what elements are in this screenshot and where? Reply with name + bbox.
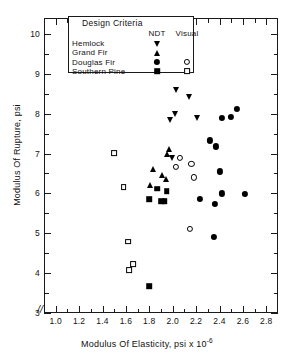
axis-tick	[255, 18, 256, 23]
y-tick-label: 7	[20, 149, 40, 159]
axis-tick	[44, 273, 51, 274]
axis-tick	[243, 306, 244, 313]
axis-tick	[114, 309, 115, 314]
axis-tick	[255, 309, 256, 314]
axis-tick	[44, 193, 51, 194]
x-axis-title-text: Modulus Of Elasticity, psi x 10	[81, 339, 207, 349]
axis-tick	[231, 18, 232, 23]
data-point	[194, 115, 200, 121]
axis-tick	[220, 306, 221, 313]
legend-marker-ndt	[154, 41, 160, 47]
legend-row-label: Hemlock	[72, 39, 105, 48]
data-point	[186, 94, 192, 100]
axis-tick	[44, 213, 49, 214]
data-point	[163, 176, 169, 182]
axis-break-marker: //	[37, 303, 43, 315]
axis-tick	[271, 34, 278, 35]
axis-tick	[271, 193, 278, 194]
axis-tick	[274, 173, 279, 174]
axis-tick	[274, 54, 279, 55]
axis-tick	[44, 74, 51, 75]
axis-tick	[56, 306, 57, 313]
axis-tick	[196, 18, 197, 25]
y-tick-label: 5	[20, 228, 40, 238]
axis-tick	[208, 18, 209, 23]
x-tick-label: 2.0	[166, 316, 178, 326]
axis-tick	[243, 18, 244, 25]
axis-tick	[271, 114, 278, 115]
axis-tick	[44, 134, 49, 135]
legend-marker-ndt	[154, 59, 160, 65]
data-point	[125, 239, 131, 245]
axis-tick	[44, 233, 51, 234]
data-point	[111, 150, 117, 156]
axis-tick	[274, 94, 279, 95]
y-tick-label: 8	[20, 109, 40, 119]
y-tick-label: 6	[20, 188, 40, 198]
axis-tick	[56, 18, 57, 25]
legend-box: Design Criteria NDTVisualHemlockGrand Fi…	[68, 16, 194, 73]
y-tick-label: 10	[20, 29, 40, 39]
axis-tick	[231, 309, 232, 314]
x-axis-title-exponent: -6	[207, 337, 213, 344]
x-tick-label: 1.8	[143, 316, 155, 326]
axis-tick	[103, 306, 104, 313]
axis-tick	[274, 134, 279, 135]
axis-tick	[271, 233, 278, 234]
data-point	[147, 283, 153, 289]
x-tick-label: 2.6	[237, 316, 249, 326]
axis-tick	[44, 253, 49, 254]
legend-row-label: Douglas Fir	[72, 58, 115, 67]
y-tick-label: 9	[20, 69, 40, 79]
axis-tick	[161, 309, 162, 314]
axis-tick	[271, 74, 278, 75]
data-point	[173, 87, 179, 93]
axis-tick	[67, 309, 68, 314]
data-point	[162, 199, 168, 205]
x-axis-title: Modulus Of Elasticity, psi x 10-6	[0, 337, 294, 349]
axis-tick	[274, 213, 279, 214]
legend-column-header: NDT	[148, 29, 165, 38]
x-tick-label: 2.2	[190, 316, 202, 326]
x-tick-label: 1.4	[96, 316, 108, 326]
axis-tick	[266, 306, 267, 313]
x-tick-label: 1.6	[120, 316, 132, 326]
data-point	[164, 188, 170, 194]
axis-tick	[44, 293, 49, 294]
x-tick-label: 1.2	[73, 316, 85, 326]
data-point	[150, 166, 156, 172]
data-point	[147, 182, 153, 188]
axis-tick	[271, 273, 278, 274]
axis-tick	[149, 306, 150, 313]
data-point	[164, 151, 170, 157]
legend-column-header: Visual	[176, 29, 199, 38]
y-tick-label: 4	[20, 268, 40, 278]
x-tick-label: 2.8	[260, 316, 272, 326]
axis-tick	[274, 253, 279, 254]
axis-tick	[44, 114, 51, 115]
data-point	[167, 117, 173, 123]
axis-tick	[196, 306, 197, 313]
x-tick-label: 2.4	[213, 316, 225, 326]
legend-row-label: Grand Fir	[72, 48, 108, 57]
y-axis-title: Modulus Of Rupture, psi	[12, 75, 22, 235]
legend-marker-ndt	[154, 50, 160, 56]
axis-tick	[44, 34, 51, 35]
axis-tick	[208, 309, 209, 314]
axis-tick	[126, 306, 127, 313]
legend-marker-visual	[184, 68, 190, 74]
axis-tick	[44, 313, 51, 314]
axis-tick	[44, 173, 49, 174]
legend-marker-ndt	[154, 69, 160, 75]
legend-row-label: Southern Pine	[72, 67, 125, 76]
data-point	[155, 186, 161, 192]
data-point	[147, 197, 153, 203]
axis-tick	[79, 306, 80, 313]
axis-tick	[91, 309, 92, 314]
data-point	[127, 267, 133, 273]
x-tick-label: 1.0	[49, 316, 61, 326]
data-point	[121, 184, 127, 190]
axis-tick	[44, 54, 49, 55]
axis-tick	[271, 154, 278, 155]
scatter-chart-figure: 1.01.21.41.61.82.02.22.42.62.8345678910 …	[0, 0, 294, 360]
